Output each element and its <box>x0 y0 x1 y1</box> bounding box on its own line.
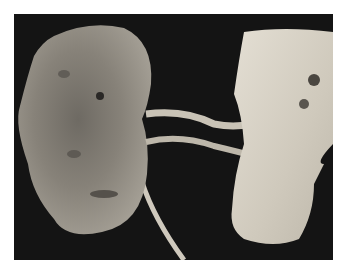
ureter <box>142 182 184 260</box>
specimen-illustration <box>14 14 333 260</box>
renal-vein <box>146 139 254 156</box>
specimen-photo <box>14 14 333 260</box>
aorta-segment <box>232 29 334 244</box>
kidney <box>18 25 151 234</box>
